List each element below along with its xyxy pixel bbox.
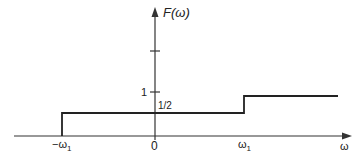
x-tick-label-neg-omega1: −ω1: [52, 138, 72, 153]
x-axis-arrow-icon: [342, 133, 352, 140]
y-axis-arrow-icon: [152, 7, 159, 17]
step-series-line: [62, 96, 338, 136]
x-axis-label: ω: [340, 140, 349, 152]
step-function-chart: F(ω) 1 1/2 0 −ω1 ω1 ω: [0, 0, 356, 157]
x-tick-label-omega1: ω1: [238, 138, 252, 153]
y-tick-label-half: 1/2: [158, 100, 172, 111]
y-tick-label-one: 1: [141, 86, 147, 98]
origin-label: 0: [151, 139, 158, 153]
y-axis-label: F(ω): [163, 5, 190, 20]
